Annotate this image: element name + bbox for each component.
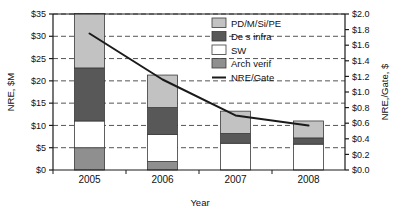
left-tick-label: $25 [31, 54, 46, 64]
legend-label-pd-m-si-pe: PD/M/Si/PE [231, 18, 281, 29]
legend: PD/M/Si/PEDe s infraSWArch verifNRE/Gate [212, 18, 281, 83]
bar-segment-sw [294, 144, 324, 170]
bar-segment-de-s-infra [294, 138, 324, 144]
legend-label-sw: SW [231, 45, 246, 56]
left-tick-label: $20 [31, 76, 46, 86]
category-axis-labels: 2005200620072008 [53, 170, 320, 185]
legend-label-nre-gate: NRE/Gate [231, 72, 274, 83]
nre-stacked-bar-chart: $0$5$10$15$20$25$30$35 $0.0$0.2$0.4$0.6$… [0, 0, 397, 215]
chart-container: $0$5$10$15$20$25$30$35 $0.0$0.2$0.4$0.6$… [0, 0, 397, 215]
left-tick-label: $35 [31, 9, 46, 19]
left-axis-ticks: $0$5$10$15$20$25$30$35 [31, 9, 53, 175]
bar-segment-de-s-infra [148, 108, 178, 135]
nre-per-gate-line [90, 34, 309, 126]
bar-segment-sw [75, 121, 105, 148]
right-tick-label: $0.2 [352, 150, 370, 160]
legend-label-de-s-infra: De s infra [231, 31, 272, 42]
left-tick-label: $10 [31, 121, 46, 131]
bars-layer [75, 14, 324, 170]
bar-segment-arch-verif [75, 148, 105, 170]
left-tick-label: $15 [31, 98, 46, 108]
bar-segment-arch-verif [148, 162, 178, 170]
bar-segment-sw [148, 134, 178, 161]
bar-column-2008 [294, 121, 324, 170]
right-tick-label: $0.0 [352, 165, 370, 175]
legend-swatch-pd-m-si-pe [212, 18, 226, 28]
bar-segment-de-s-infra [221, 133, 251, 143]
legend-swatch-de-s-infra [212, 32, 226, 42]
right-tick-label: $2.0 [352, 9, 370, 19]
right-tick-label: $0.8 [352, 103, 370, 113]
nre-per-gate-polyline [90, 34, 309, 126]
right-tick-label: $1.2 [352, 72, 370, 82]
right-tick-label: $1.4 [352, 56, 370, 66]
left-tick-label: $0 [36, 165, 46, 175]
right-tick-label: $0.4 [352, 134, 370, 144]
left-tick-label: $30 [31, 31, 46, 41]
right-tick-label: $1.0 [352, 87, 370, 97]
left-axis-title: NRE, $M [5, 73, 16, 112]
category-label-2008: 2008 [297, 174, 320, 185]
legend-swatch-sw [212, 45, 226, 55]
right-tick-label: $1.8 [352, 25, 370, 35]
left-tick-label: $5 [36, 143, 46, 153]
right-tick-label: $0.6 [352, 118, 370, 128]
bar-column-2006 [148, 75, 178, 170]
bar-column-2007 [221, 111, 251, 170]
bar-segment-sw [221, 143, 251, 170]
right-tick-label: $1.6 [352, 40, 370, 50]
x-axis-title: Year [190, 197, 209, 208]
bar-column-2005 [75, 14, 105, 170]
category-label-2005: 2005 [78, 174, 101, 185]
legend-swatch-arch-verif [212, 59, 226, 69]
legend-label-arch-verif: Arch verif [231, 58, 271, 69]
bar-segment-de-s-infra [75, 68, 105, 121]
category-label-2007: 2007 [224, 174, 247, 185]
category-label-2006: 2006 [151, 174, 174, 185]
right-axis-ticks: $0.0$0.2$0.4$0.6$0.8$1.0$1.2$1.4$1.6$1.8… [345, 9, 370, 175]
right-axis-title: NRE,/Gate, $ [379, 63, 390, 120]
